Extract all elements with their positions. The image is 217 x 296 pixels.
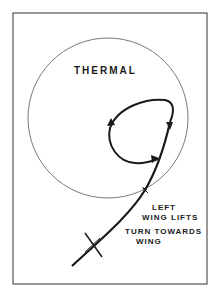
annotation-wing: WING xyxy=(136,237,162,246)
thermal-diagram: THERMAL LEFT WING LIFTS TURN TOWARDS WIN… xyxy=(0,0,217,296)
annotation-left: LEFT xyxy=(152,203,176,212)
annotation-turn-towards: TURN TOWARDS xyxy=(125,227,202,236)
thermal-circle xyxy=(28,38,188,198)
arrowhead-up-icon xyxy=(166,122,173,130)
annotation-wing-lifts: WING LIFTS xyxy=(142,213,198,222)
thermal-label: THERMAL xyxy=(74,65,137,76)
circling-path xyxy=(109,100,173,163)
glider-icon xyxy=(85,233,102,257)
diagram-frame xyxy=(13,13,207,284)
